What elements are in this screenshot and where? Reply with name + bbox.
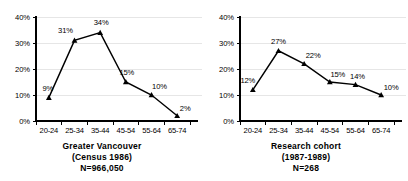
svg-text:2%: 2%	[180, 104, 191, 113]
y-axis-left	[33, 16, 37, 121]
svg-text:14%: 14%	[350, 72, 365, 81]
svg-text:9%: 9%	[42, 84, 53, 93]
caption-subtitle-left: (Census 1986)	[0, 152, 204, 163]
svg-text:31%: 31%	[58, 26, 73, 35]
svg-text:30%: 30%	[15, 39, 30, 48]
caption-right: Research cohort (1987-1989) N=268	[204, 141, 408, 174]
caption-subtitle-right: (1987-1989)	[204, 152, 408, 163]
svg-text:20%: 20%	[15, 65, 30, 74]
point-labels-right: 12%27%22%15%14%10%	[240, 37, 399, 92]
svg-text:20-24: 20-24	[40, 126, 58, 135]
caption-title-left: Greater Vancouver	[0, 141, 204, 152]
svg-text:25-34: 25-34	[65, 126, 83, 135]
plot-area-left: 9%31%34%15%10%2% 0%10%20%30%40% 20-2425-…	[0, 0, 204, 141]
x-tick-labels-right: 20-2425-3435-4445-5455-6465-74	[244, 126, 391, 135]
svg-text:0%: 0%	[19, 117, 30, 126]
x-axis-right	[240, 121, 402, 125]
svg-text:0%: 0%	[223, 117, 234, 126]
plot-area-right: 12%27%22%15%14%10% 0%10%20%30%40% 20-242…	[204, 0, 408, 141]
svg-text:35-44: 35-44	[91, 126, 109, 135]
svg-text:10%: 10%	[384, 83, 399, 92]
caption-n-right: N=268	[204, 163, 408, 174]
svg-text:45-54: 45-54	[117, 126, 135, 135]
svg-text:10%: 10%	[15, 91, 30, 100]
chart-panel-research-cohort: 12%27%22%15%14%10% 0%10%20%30%40% 20-242…	[204, 0, 408, 181]
y-tick-labels-left: 0%10%20%30%40%	[15, 13, 30, 126]
svg-text:12%: 12%	[240, 76, 255, 85]
svg-text:10%: 10%	[219, 91, 234, 100]
gridlines-right	[241, 17, 406, 95]
svg-text:55-64: 55-64	[346, 126, 364, 135]
svg-text:65-74: 65-74	[168, 126, 186, 135]
y-tick-labels-right: 0%10%20%30%40%	[219, 13, 234, 126]
svg-text:15%: 15%	[119, 68, 134, 77]
svg-text:40%: 40%	[219, 13, 234, 22]
svg-text:45-54: 45-54	[321, 126, 339, 135]
svg-text:27%: 27%	[271, 37, 286, 46]
caption-title-right: Research cohort	[204, 141, 408, 152]
x-axis-left	[36, 121, 198, 125]
svg-text:25-34: 25-34	[269, 126, 287, 135]
svg-text:15%: 15%	[330, 70, 345, 79]
series-left	[49, 33, 177, 116]
svg-text:20-24: 20-24	[244, 126, 262, 135]
svg-text:30%: 30%	[219, 39, 234, 48]
svg-text:35-44: 35-44	[295, 126, 313, 135]
svg-text:65-74: 65-74	[372, 126, 390, 135]
caption-n-left: N=966,050	[0, 163, 204, 174]
svg-text:22%: 22%	[306, 51, 321, 60]
figure-two-panel-line-charts: 9%31%34%15%10%2% 0%10%20%30%40% 20-2425-…	[0, 0, 408, 181]
caption-left: Greater Vancouver (Census 1986) N=966,05…	[0, 141, 204, 174]
svg-text:55-64: 55-64	[142, 126, 160, 135]
chart-panel-greater-vancouver: 9%31%34%15%10%2% 0%10%20%30%40% 20-2425-…	[0, 0, 204, 181]
svg-text:40%: 40%	[15, 13, 30, 22]
svg-text:20%: 20%	[219, 65, 234, 74]
svg-text:10%: 10%	[152, 82, 167, 91]
svg-text:34%: 34%	[94, 18, 109, 27]
x-tick-labels-left: 20-2425-3435-4445-5455-6465-74	[40, 126, 187, 135]
y-axis-right	[237, 16, 241, 121]
